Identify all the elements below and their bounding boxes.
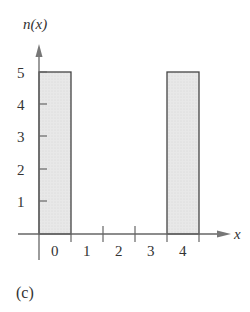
x-axis-arrow-icon: [217, 231, 231, 238]
x-tick-label-0: 0: [51, 243, 59, 259]
y-tick-label-5: 5: [17, 65, 25, 81]
y-tick-label-1: 1: [17, 194, 25, 210]
y-tick-label-2: 2: [17, 162, 25, 178]
figure-caption: (c): [16, 284, 34, 302]
bar-0: [39, 72, 71, 234]
y-axis-arrow-icon: [36, 44, 43, 57]
chart-canvas: 5 4 3 2 1 0 1 2 3 4 n(x) x: [0, 0, 250, 312]
x-tick-label-1: 1: [83, 243, 91, 259]
y-axis-label: n(x): [23, 16, 47, 33]
x-tick-label-2: 2: [115, 243, 123, 259]
bar-4: [167, 72, 199, 234]
x-tick-label-3: 3: [147, 243, 155, 259]
bars: [39, 72, 199, 234]
x-tick-label-4: 4: [179, 243, 187, 259]
y-tick-label-4: 4: [17, 97, 25, 113]
x-axis-label: x: [233, 226, 241, 242]
y-tick-label-3: 3: [17, 129, 25, 145]
